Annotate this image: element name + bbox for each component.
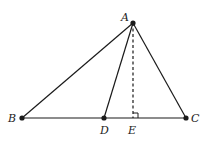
label-c: C — [191, 112, 200, 125]
point-b — [19, 115, 24, 120]
triangle-diagram: A B C D E — [0, 0, 209, 143]
segment-ad — [104, 23, 133, 118]
point-c — [183, 115, 188, 120]
points — [19, 20, 188, 120]
label-d: D — [99, 124, 109, 137]
right-angle-marker — [133, 113, 138, 118]
segment-ac — [133, 23, 186, 118]
right-angle-icon — [133, 113, 138, 118]
label-b: B — [7, 112, 16, 125]
segment-ab — [22, 23, 133, 118]
label-e: E — [127, 124, 136, 137]
point-a — [130, 20, 135, 25]
segments — [22, 23, 186, 118]
label-a: A — [120, 11, 129, 24]
point-d — [101, 115, 106, 120]
